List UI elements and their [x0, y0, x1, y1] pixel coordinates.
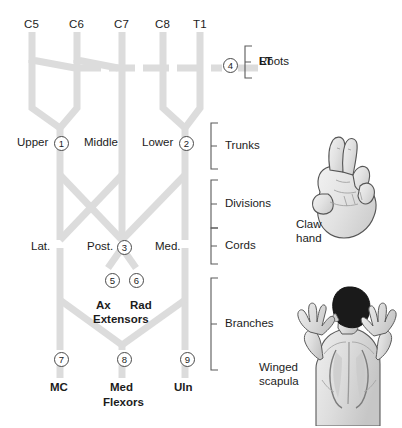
winged-scapula-drawing — [292, 280, 400, 426]
root-label-c6: C6 — [69, 18, 84, 30]
bracket-roots — [245, 46, 252, 78]
cord-label-posterior: Post. — [87, 240, 113, 252]
marker-8[interactable]: 8 — [117, 352, 132, 367]
root-label-c5: C5 — [24, 18, 39, 30]
nerve-label-mc: MC — [50, 381, 68, 393]
trunk-path-upper-left — [32, 60, 60, 128]
claw-hand-label-line2: hand — [296, 232, 322, 244]
winged-scapula-label-line1: Winged — [259, 361, 298, 373]
root-path-c8 — [163, 32, 185, 128]
marker-2[interactable]: 2 — [179, 136, 194, 151]
marker-4[interactable]: 4 — [223, 58, 238, 73]
nerve-label-ax: Ax — [96, 299, 111, 311]
bracket-divisions — [211, 180, 218, 228]
cord-label-medial: Med. — [155, 240, 181, 252]
root-label-t1: T1 — [193, 18, 207, 30]
tier-label-divisions: Divisions — [225, 197, 271, 209]
division-lower-posterior — [122, 175, 185, 240]
thumb — [313, 194, 334, 214]
bracket-branches — [211, 278, 218, 370]
tier-label-branches: Branches — [225, 317, 274, 329]
root-path-c5 — [32, 32, 75, 68]
root-label-c8: C8 — [155, 18, 170, 30]
root-path-c6 — [77, 32, 118, 68]
nerve-label-uln: Uln — [174, 381, 193, 393]
bracket-cords — [211, 228, 218, 264]
torso-back — [316, 328, 380, 426]
bracket-trunks — [211, 123, 218, 169]
marker-6[interactable]: 6 — [129, 273, 144, 288]
tier-label-cords: Cords — [225, 239, 256, 251]
trunk-label-lower: Lower — [142, 136, 173, 148]
nerve-label-med: Med — [110, 381, 133, 393]
nerve-label-rad: Rad — [130, 299, 152, 311]
marker-3[interactable]: 3 — [117, 240, 132, 255]
root-path-t1 — [185, 32, 200, 128]
marker-9[interactable]: 9 — [180, 352, 195, 367]
tier-label-trunks: Trunks — [225, 139, 260, 151]
nerve-label-lt: LT — [259, 55, 272, 67]
cord-label-lateral: Lat. — [31, 240, 50, 252]
marker-5[interactable]: 5 — [105, 273, 120, 288]
claw-hand-label-line1: Claw — [296, 218, 322, 230]
winged-scapula-illustration — [292, 280, 400, 426]
middle-finger — [343, 139, 358, 175]
nerve-label-flexors: Flexors — [103, 396, 144, 408]
nerve-label-extensors: Extensors — [93, 313, 149, 325]
trunk-label-middle: Middle — [84, 136, 118, 148]
winged-scapula-label-line2: scapula — [259, 375, 299, 387]
marker-7[interactable]: 7 — [54, 352, 69, 367]
brachial-plexus-figure: C5 C6 C7 C8 T1 Roots Trunks Divisions Co… — [0, 0, 402, 428]
marker-1[interactable]: 1 — [54, 136, 69, 151]
left-hand — [298, 303, 335, 335]
root-label-c7: C7 — [114, 18, 129, 30]
trunk-label-upper: Upper — [17, 136, 48, 148]
